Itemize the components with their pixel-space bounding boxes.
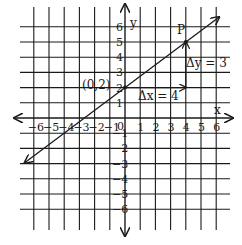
y-tick-label: −3 (112, 158, 128, 171)
x-tick-label: 4 (183, 121, 190, 134)
y-tick-label: 4 (116, 51, 123, 64)
y-tick-label: −5 (112, 188, 128, 201)
y-tick-label: 1 (116, 97, 123, 110)
point-label-0-2: (0,2) (82, 78, 110, 92)
x-tick-label: −5 (43, 121, 59, 134)
delta-x-label: Δx = 4 (138, 89, 179, 103)
x-tick-label: −2 (89, 121, 105, 134)
y-tick-label: 2 (116, 82, 123, 95)
x-tick-label: 3 (168, 121, 175, 134)
x-axis-label: x (214, 103, 221, 117)
y-axis-label: y (129, 16, 137, 30)
x-tick-label: 6 (213, 121, 220, 134)
x-tick-label: −6 (28, 121, 44, 134)
point-0-2 (123, 86, 127, 90)
origin-label: 0 (117, 120, 124, 133)
y-tick-label: −6 (112, 203, 128, 216)
x-tick-label: 5 (198, 121, 205, 134)
x-tick-label: 1 (137, 121, 144, 134)
delta-y-label: Δy = 3 (186, 56, 227, 70)
y-tick-label: 5 (116, 36, 123, 49)
coordinate-graph: −6−5−4−3−2−1123456 654321−1−2−3−4−5−6 0 … (0, 0, 242, 245)
y-tick-label: −4 (112, 173, 128, 186)
y-tick-label: 3 (116, 66, 123, 79)
y-tick-label: −2 (112, 142, 128, 155)
x-tick-label: −3 (73, 121, 89, 134)
x-tick-label: 2 (152, 121, 159, 134)
point-label-p: P (177, 23, 185, 37)
y-tick-label: 6 (116, 21, 123, 34)
x-tick-label: −4 (58, 121, 74, 134)
point-p (184, 40, 188, 44)
